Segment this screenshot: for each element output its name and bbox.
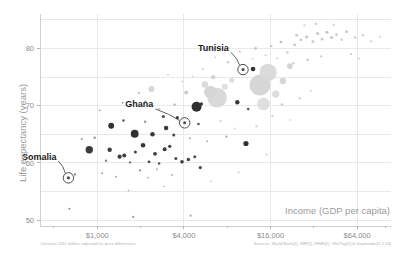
- data-point: [172, 133, 175, 136]
- data-point: [210, 180, 212, 182]
- data-point: [101, 172, 103, 174]
- data-point: [272, 91, 279, 98]
- data-point: [227, 61, 229, 63]
- data-point: [139, 169, 141, 171]
- data-point: [74, 173, 76, 175]
- data-point: [147, 177, 149, 179]
- data-point: [238, 171, 240, 173]
- data-point: [235, 100, 239, 104]
- data-point: [233, 127, 235, 129]
- data-point: [239, 51, 241, 53]
- x-tick-label: $16,000: [257, 231, 284, 240]
- data-point: [289, 119, 291, 121]
- data-point: [68, 208, 70, 210]
- data-point: [141, 143, 146, 148]
- data-point: [358, 58, 360, 60]
- data-point: [326, 31, 329, 34]
- data-point: [220, 120, 222, 122]
- data-point: [271, 115, 273, 117]
- data-point: [122, 154, 126, 158]
- data-point: [184, 91, 188, 95]
- data-point: [303, 24, 305, 26]
- data-point: [247, 108, 250, 111]
- annotation-label: Ghana: [125, 99, 154, 109]
- data-point: [122, 119, 125, 122]
- data-point: [316, 32, 319, 35]
- data-point: [81, 138, 83, 140]
- data-point: [187, 158, 190, 161]
- data-point: [163, 147, 167, 151]
- data-point: [150, 132, 155, 137]
- data-point: [108, 123, 114, 129]
- data-point: [255, 125, 257, 127]
- data-point: [168, 145, 171, 148]
- data-point: [229, 78, 234, 83]
- data-point: [311, 40, 314, 43]
- life-expectancy-vs-income-scatter-chart: 50607080$1,000$4,000$16,000$64,000 Tunis…: [0, 0, 397, 253]
- data-point: [148, 160, 151, 163]
- data-point: [134, 151, 137, 154]
- data-point: [321, 38, 324, 41]
- data-point: [129, 161, 131, 163]
- data-point: [225, 136, 227, 138]
- data-point: [292, 62, 294, 64]
- data-point: [67, 176, 70, 179]
- data-point: [370, 40, 372, 42]
- data-point: [167, 74, 169, 76]
- data-point: [163, 186, 165, 188]
- data-point: [265, 54, 267, 56]
- footnote-left: Constant 2011 dollars adjusted for price…: [40, 241, 136, 246]
- data-point: [314, 22, 317, 25]
- data-point: [183, 121, 186, 124]
- data-point: [153, 152, 157, 156]
- data-point: [189, 215, 191, 217]
- data-point: [122, 102, 124, 104]
- data-point: [99, 109, 101, 111]
- data-point: [298, 97, 300, 99]
- x-tick-label: $64,000: [344, 231, 371, 240]
- data-point: [354, 36, 357, 39]
- data-point: [115, 176, 117, 178]
- data-point: [200, 102, 203, 105]
- data-point: [206, 140, 208, 142]
- data-point: [107, 148, 111, 152]
- data-point: [148, 86, 154, 92]
- data-point: [379, 36, 381, 38]
- data-point: [138, 92, 140, 94]
- data-point: [276, 57, 278, 59]
- data-point: [174, 103, 176, 105]
- data-point: [158, 162, 161, 165]
- data-point: [94, 137, 96, 139]
- data-point: [281, 103, 284, 106]
- y-axis-title: Life expectancy (years): [17, 84, 28, 182]
- data-point: [86, 146, 93, 153]
- data-point: [270, 45, 272, 47]
- data-point: [156, 168, 158, 170]
- data-point: [144, 121, 146, 123]
- data-point: [254, 47, 257, 50]
- data-point: [132, 216, 134, 218]
- data-point: [193, 155, 196, 158]
- data-point: [105, 159, 107, 161]
- data-point: [241, 68, 244, 71]
- x-tick-label: $4,000: [172, 231, 195, 240]
- annotation-label: Tunisia: [198, 43, 230, 53]
- data-point: [310, 90, 312, 92]
- data-point: [222, 84, 228, 90]
- data-point: [350, 53, 352, 55]
- data-point: [333, 24, 335, 26]
- footnote-right: Sources: World Bank[1], IMF[1], IHME[1],…: [254, 241, 391, 246]
- data-point: [162, 115, 165, 118]
- data-point: [330, 36, 333, 39]
- data-point: [320, 55, 322, 57]
- data-point: [243, 141, 248, 146]
- data-point: [252, 58, 254, 60]
- data-point: [300, 38, 303, 41]
- data-point: [202, 68, 204, 70]
- data-point: [286, 51, 288, 53]
- data-point: [287, 63, 293, 69]
- data-point: [257, 98, 270, 111]
- y-tick-label: 50: [26, 216, 34, 225]
- y-tick-label: 80: [26, 44, 34, 53]
- data-point: [362, 34, 364, 36]
